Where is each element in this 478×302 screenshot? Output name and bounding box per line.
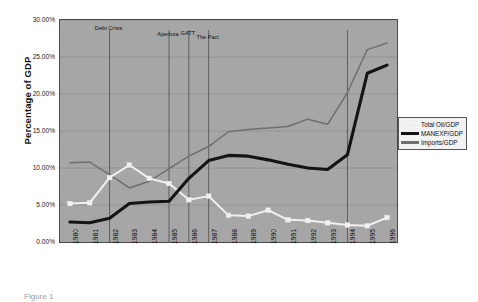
series-marker <box>286 218 291 223</box>
series-marker <box>246 214 251 219</box>
y-axis-tick-label: 30.00% <box>13 16 55 23</box>
x-axis-tick-label: 1980 <box>72 229 79 244</box>
y-axis-tick-label: 25.00% <box>13 53 55 60</box>
annotation-label: Debt Crisis <box>95 25 122 31</box>
legend-item[interactable]: Imports/GDP <box>401 138 463 147</box>
series-marker <box>147 176 152 181</box>
legend-item-label: Imports/GDP <box>421 138 457 147</box>
chart-legend: Total Oil/GDPMANEXP/GDPImports/GDP <box>398 117 467 150</box>
series-marker <box>226 213 231 218</box>
series-marker <box>266 208 271 213</box>
series-marker <box>68 201 73 206</box>
series-marker <box>305 218 310 223</box>
legend-swatch-icon <box>401 132 419 135</box>
series-marker <box>325 220 330 225</box>
x-axis-tick-label: 1987 <box>211 229 218 244</box>
legend-swatch-icon <box>401 141 419 143</box>
annotation-label: The Pact <box>196 34 218 40</box>
x-axis-tick-label: 1992 <box>310 229 317 244</box>
legend-swatch-icon <box>401 123 419 125</box>
y-axis-tick-label: 5.00% <box>13 201 55 208</box>
x-axis-tick-label: 1996 <box>389 229 396 244</box>
series-marker <box>385 215 390 220</box>
y-axis-tick-label: 15.00% <box>13 127 55 134</box>
series-line <box>70 43 387 188</box>
annotation-label: Apertura <box>157 31 178 37</box>
series-marker <box>167 181 172 186</box>
x-axis-tick-label: 1988 <box>231 229 238 244</box>
x-axis-tick-label: 1993 <box>330 229 337 244</box>
x-axis-tick-label: 1985 <box>171 229 178 244</box>
y-axis-tick-label: 20.00% <box>13 90 55 97</box>
series-marker <box>206 194 211 199</box>
legend-item[interactable]: Total Oil/GDP <box>401 120 463 129</box>
figure-caption: Figure 1 <box>24 292 53 301</box>
legend-item-label: MANEXP/GDP <box>421 129 463 138</box>
x-axis-tick-label: 1994 <box>349 229 356 244</box>
y-axis-ticks: 0.00%5.00%10.00%15.00%20.00%25.00%30.00% <box>10 0 55 302</box>
series-marker <box>365 223 370 228</box>
series-line <box>70 65 387 223</box>
x-axis-tick-label: 1983 <box>131 229 138 244</box>
y-axis-tick-label: 10.00% <box>13 164 55 171</box>
series-marker <box>107 175 112 180</box>
series-marker <box>87 200 92 205</box>
x-axis-tick-label: 1989 <box>250 229 257 244</box>
x-axis-tick-label: 1995 <box>369 229 376 244</box>
chart-svg <box>60 20 397 242</box>
x-axis-tick-label: 1986 <box>191 229 198 244</box>
x-axis-tick-label: 1991 <box>290 229 297 244</box>
series-marker <box>127 163 132 168</box>
x-axis-tick-label: 1981 <box>92 229 99 244</box>
x-axis-tick-label: 1990 <box>270 229 277 244</box>
x-axis-tick-label: 1984 <box>151 229 158 244</box>
legend-item-label: Total Oil/GDP <box>421 120 459 129</box>
annotation-label: GATT <box>181 30 196 36</box>
plot-area <box>59 19 398 243</box>
figure-container: Percentage of GDP 0.00%5.00%10.00%15.00%… <box>0 0 478 302</box>
series-marker <box>187 198 192 203</box>
legend-item[interactable]: MANEXP/GDP <box>401 129 463 138</box>
x-axis-ticks: 1980198119821983198419851986198719881989… <box>59 244 398 284</box>
x-axis-tick-label: 1982 <box>112 229 119 244</box>
y-axis-tick-label: 0.00% <box>13 238 55 245</box>
series-marker <box>345 223 350 228</box>
